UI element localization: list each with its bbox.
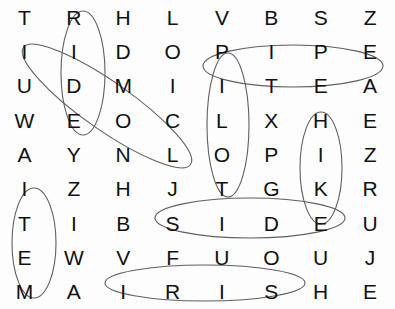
grid-letter-r6-c6[interactable]: G (247, 172, 296, 206)
grid-letter-r7-c6[interactable]: D (247, 206, 296, 240)
grid-letter-r4-c1[interactable]: W (0, 103, 49, 137)
grid-letter-r5-c2[interactable]: Y (49, 137, 98, 171)
grid-letter-r9-c4[interactable]: R (148, 275, 197, 309)
grid-letter-r8-c4[interactable]: F (148, 240, 197, 274)
grid-letter-r2-c4[interactable]: O (148, 34, 197, 68)
grid-letter-r5-c8[interactable]: Z (346, 137, 395, 171)
grid-letter-r5-c1[interactable]: A (0, 137, 49, 171)
grid-letter-r7-c7[interactable]: E (296, 206, 345, 240)
grid-letter-r7-c5[interactable]: I (198, 206, 247, 240)
grid-letter-r2-c8[interactable]: E (346, 34, 395, 68)
grid-letter-r2-c5[interactable]: P (198, 34, 247, 68)
grid-letter-r9-c6[interactable]: S (247, 275, 296, 309)
grid-letter-r3-c6[interactable]: T (247, 69, 296, 103)
grid-letter-r8-c7[interactable]: U (296, 240, 345, 274)
grid-letter-r6-c8[interactable]: R (346, 172, 395, 206)
grid-letter-r8-c2[interactable]: W (49, 240, 98, 274)
grid-letter-r6-c5[interactable]: T (198, 172, 247, 206)
grid-letter-r6-c2[interactable]: Z (49, 172, 98, 206)
grid-letter-r9-c3[interactable]: I (99, 275, 148, 309)
grid-letter-r5-c5[interactable]: O (198, 137, 247, 171)
grid-letter-r7-c8[interactable]: U (346, 206, 395, 240)
letter-grid: TRHLVBSZIIDOPIPEUDMIITEAWEOCLXHEAYNLOPIZ… (0, 0, 395, 309)
grid-letter-r8-c6[interactable]: O (247, 240, 296, 274)
grid-letter-r3-c7[interactable]: E (296, 69, 345, 103)
grid-letter-r3-c4[interactable]: I (148, 69, 197, 103)
grid-letter-r7-c4[interactable]: S (148, 206, 197, 240)
grid-letter-r8-c8[interactable]: J (346, 240, 395, 274)
grid-letter-r3-c8[interactable]: A (346, 69, 395, 103)
grid-letter-r5-c3[interactable]: N (99, 137, 148, 171)
grid-letter-r6-c3[interactable]: H (99, 172, 148, 206)
grid-letter-r4-c6[interactable]: X (247, 103, 296, 137)
grid-letter-r9-c5[interactable]: I (198, 275, 247, 309)
grid-letter-r1-c3[interactable]: H (99, 0, 148, 34)
grid-letter-r5-c6[interactable]: P (247, 137, 296, 171)
grid-letter-r3-c5[interactable]: I (198, 69, 247, 103)
grid-letter-r1-c8[interactable]: Z (346, 0, 395, 34)
grid-letter-r2-c2[interactable]: I (49, 34, 98, 68)
grid-letter-r1-c7[interactable]: S (296, 0, 345, 34)
grid-letter-r6-c7[interactable]: K (296, 172, 345, 206)
grid-letter-r2-c6[interactable]: I (247, 34, 296, 68)
grid-letter-r7-c3[interactable]: B (99, 206, 148, 240)
grid-letter-r2-c7[interactable]: P (296, 34, 345, 68)
grid-letter-r9-c8[interactable]: E (346, 275, 395, 309)
grid-letter-r4-c4[interactable]: C (148, 103, 197, 137)
grid-letter-r5-c4[interactable]: L (148, 137, 197, 171)
grid-letter-r9-c2[interactable]: A (49, 275, 98, 309)
grid-letter-r4-c2[interactable]: E (49, 103, 98, 137)
grid-letter-r7-c1[interactable]: T (0, 206, 49, 240)
grid-letter-r5-c7[interactable]: I (296, 137, 345, 171)
grid-letter-r4-c8[interactable]: E (346, 103, 395, 137)
grid-letter-r6-c1[interactable]: I (0, 172, 49, 206)
grid-letter-r9-c7[interactable]: H (296, 275, 345, 309)
grid-letter-r1-c1[interactable]: T (0, 0, 49, 34)
grid-letter-r1-c4[interactable]: L (148, 0, 197, 34)
grid-letter-r2-c1[interactable]: I (0, 34, 49, 68)
grid-letter-r4-c3[interactable]: O (99, 103, 148, 137)
grid-letter-r3-c1[interactable]: U (0, 69, 49, 103)
grid-letter-r8-c3[interactable]: V (99, 240, 148, 274)
grid-letter-r6-c4[interactable]: J (148, 172, 197, 206)
grid-letter-r8-c5[interactable]: U (198, 240, 247, 274)
grid-letter-r1-c6[interactable]: B (247, 0, 296, 34)
grid-letter-r4-c7[interactable]: H (296, 103, 345, 137)
grid-letter-r3-c3[interactable]: M (99, 69, 148, 103)
grid-letter-r3-c2[interactable]: D (49, 69, 98, 103)
grid-letter-r7-c2[interactable]: I (49, 206, 98, 240)
grid-letter-r9-c1[interactable]: M (0, 275, 49, 309)
grid-letter-r1-c2[interactable]: R (49, 0, 98, 34)
grid-letter-r8-c1[interactable]: E (0, 240, 49, 274)
grid-letter-r2-c3[interactable]: D (99, 34, 148, 68)
grid-letter-r1-c5[interactable]: V (198, 0, 247, 34)
grid-letter-r4-c5[interactable]: L (198, 103, 247, 137)
word-search-puzzle: TRHLVBSZIIDOPIPEUDMIITEAWEOCLXHEAYNLOPIZ… (0, 0, 395, 309)
